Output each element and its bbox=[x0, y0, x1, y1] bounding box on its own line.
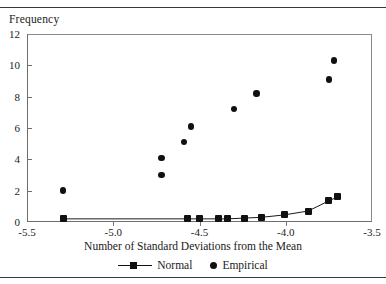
normal-series-line bbox=[27, 34, 372, 222]
legend-circle-marker-icon bbox=[210, 262, 217, 269]
legend-entry-normal: Normal bbox=[118, 259, 192, 271]
y-tick-label: 6 bbox=[0, 122, 20, 134]
data-point-normal bbox=[60, 215, 67, 222]
y-axis-title: Frequency bbox=[9, 13, 59, 25]
x-tick-mark bbox=[113, 222, 114, 226]
y-tick-label: 0 bbox=[0, 216, 20, 228]
data-point-normal bbox=[334, 193, 341, 200]
data-point-normal bbox=[184, 215, 191, 222]
y-tick-label: 10 bbox=[0, 59, 20, 71]
data-point-normal bbox=[241, 215, 248, 222]
data-point-empirical bbox=[326, 76, 333, 83]
page-rule-top bbox=[0, 7, 386, 8]
x-tick-label: -5.5 bbox=[18, 226, 35, 238]
data-point-normal bbox=[215, 215, 222, 222]
chart-legend: Normal Empirical bbox=[0, 259, 386, 271]
x-tick-label: -3.5 bbox=[363, 226, 380, 238]
legend-label-empirical: Empirical bbox=[222, 259, 267, 271]
data-point-empirical bbox=[188, 123, 195, 130]
data-point-normal bbox=[224, 215, 231, 222]
data-point-empirical bbox=[158, 155, 165, 162]
x-tick-label: -4.5 bbox=[191, 226, 208, 238]
y-tick-label: 4 bbox=[0, 153, 20, 165]
data-point-normal bbox=[325, 197, 332, 204]
data-point-normal bbox=[196, 215, 203, 222]
x-tick-mark bbox=[286, 222, 287, 226]
x-tick-label: -5.0 bbox=[105, 226, 122, 238]
y-tick-label: 2 bbox=[0, 185, 20, 197]
x-tick-mark bbox=[200, 222, 201, 226]
data-point-empirical bbox=[158, 172, 165, 179]
page-rule-bottom bbox=[0, 277, 386, 278]
x-axis-title: Number of Standard Deviations from the M… bbox=[0, 240, 386, 252]
legend-label-normal: Normal bbox=[157, 259, 192, 271]
data-point-normal bbox=[258, 214, 265, 221]
data-point-empirical bbox=[331, 57, 338, 64]
y-tick-label: 12 bbox=[0, 28, 20, 40]
legend-line-marker-icon bbox=[118, 260, 152, 270]
data-point-empirical bbox=[253, 90, 260, 97]
chart-figure: Frequency 024681012 -5.5-5.0-4.5-4.0-3.5… bbox=[0, 0, 386, 284]
data-point-normal bbox=[281, 211, 288, 218]
legend-entry-empirical: Empirical bbox=[210, 259, 267, 271]
data-point-normal bbox=[305, 208, 312, 215]
x-tick-label: -4.0 bbox=[277, 226, 294, 238]
y-tick-label: 8 bbox=[0, 91, 20, 103]
